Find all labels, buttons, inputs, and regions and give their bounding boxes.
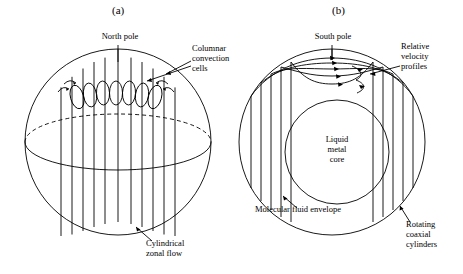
convection-cell-3 xyxy=(96,81,110,106)
flow-arrow-1 xyxy=(330,56,335,61)
leader-zonal-flow-arrow xyxy=(136,227,141,232)
figure-drawing xyxy=(0,0,463,274)
cell-arrowhead-left-1 xyxy=(73,82,76,85)
velocity-profile-curve xyxy=(352,66,364,93)
cell-arrow-right-2 xyxy=(163,88,174,92)
flow-arrow-2 xyxy=(332,61,337,66)
flow-curve-2 xyxy=(261,63,403,83)
panel-label-a: (a) xyxy=(112,4,124,16)
label-north-pole: North pole xyxy=(85,31,155,41)
leader-columnar-1 xyxy=(166,61,191,74)
flow-arrow-3 xyxy=(334,67,339,72)
leader-molecular-arrow xyxy=(283,196,288,201)
label-molecular-fluid-envelope: Molecular fluid envelope xyxy=(255,204,375,214)
flow-curve-5 xyxy=(291,62,373,84)
convection-cell-5 xyxy=(122,81,136,106)
flow-arrow-4 xyxy=(336,74,341,79)
convection-cell-7 xyxy=(146,84,165,111)
velocity-profile-arrow-1 xyxy=(357,68,363,72)
convection-cell-2 xyxy=(82,82,98,108)
panel-label-b: (b) xyxy=(332,4,345,16)
cell-arrow-right-1 xyxy=(156,81,168,84)
figure-canvas: (a) (b) xyxy=(0,0,463,274)
leader-velocity-arrow xyxy=(370,72,375,76)
flow-arrow-5 xyxy=(338,82,343,87)
cell-arrow-left-2 xyxy=(58,88,69,92)
sphere-outline-a xyxy=(25,49,211,235)
cell-arrowhead-right-1 xyxy=(156,82,159,85)
leader-columnar-2 xyxy=(147,66,191,81)
equator-back-a xyxy=(25,114,211,142)
leader-rotating-arrow xyxy=(400,206,404,211)
convection-cell-4 xyxy=(110,81,123,105)
flow-curve-1 xyxy=(251,58,413,96)
flow-curve-3 xyxy=(271,68,393,74)
velocity-profile-arrow-2 xyxy=(359,85,365,89)
cell-arrow-left-1 xyxy=(64,81,76,84)
label-south-pole: South pole xyxy=(299,31,367,41)
label-rotating-coaxial-cylinders: Rotating coaxial cylinders xyxy=(406,219,460,249)
leader-columnar-arrow-1 xyxy=(166,71,171,75)
label-columnar-convection-cells: Columnar convection cells xyxy=(192,43,250,73)
leader-velocity-profiles xyxy=(370,66,400,74)
label-liquid-metal-core: Liquid metal core xyxy=(313,134,361,164)
label-relative-velocity-profiles: Relative velocity profiles xyxy=(401,41,457,71)
convection-cell-6 xyxy=(134,82,150,108)
label-cylindrical-zonal-flow: Cylindrical zonal flow xyxy=(146,238,208,258)
cell-arrowhead-left-2 xyxy=(66,88,69,91)
cell-arrowhead-right-2 xyxy=(163,88,166,91)
flow-curve-4 xyxy=(281,67,383,76)
equator-front-a xyxy=(25,142,211,170)
convection-cell-1 xyxy=(68,84,87,111)
leader-columnar-arrow-2 xyxy=(147,78,152,82)
